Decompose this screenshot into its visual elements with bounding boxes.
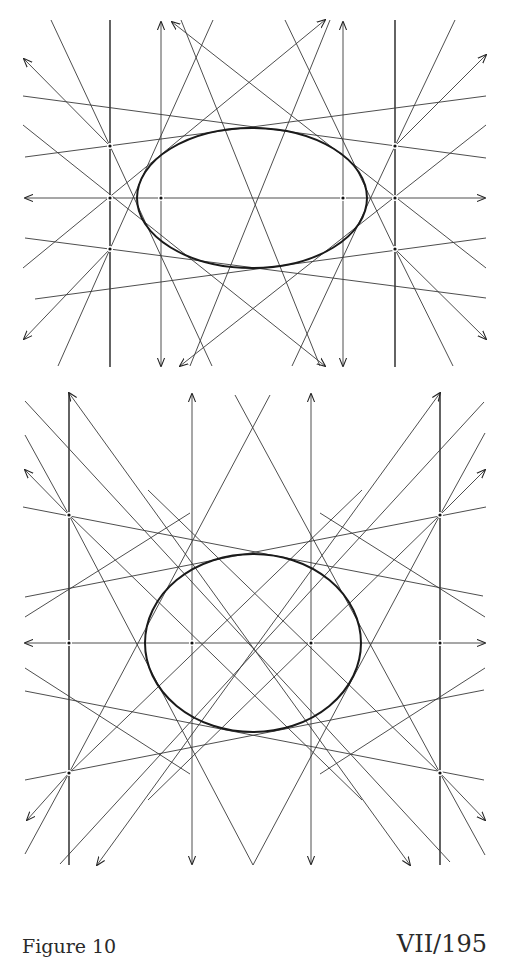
- figure-caption: Figure 10: [22, 935, 116, 965]
- figure-bottom-ellipse-construction: [0, 380, 509, 880]
- page-reference: VII/195: [397, 930, 487, 960]
- tangent-lines: [23, 20, 486, 366]
- bottom-diagram-svg: [0, 380, 509, 880]
- figure-top-ellipse-construction: [0, 0, 509, 380]
- verticals: [110, 20, 395, 367]
- tangent-lines: [23, 393, 486, 865]
- top-diagram-svg: [0, 0, 509, 380]
